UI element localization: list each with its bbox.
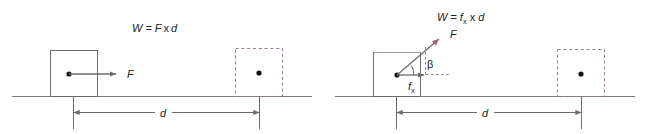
formula-force: F <box>155 22 163 34</box>
formula-times-right: x <box>470 11 476 23</box>
formula-equals-right: = <box>450 11 456 23</box>
diagram-canvas: W=Fxd F d W=fxxd <box>0 0 647 134</box>
panel-right-formula: W=fxxd <box>437 11 485 26</box>
formula-force-subscript-right: x <box>463 17 467 26</box>
force-arrow-label-left: F <box>127 68 135 80</box>
angle-arc-right <box>412 66 415 75</box>
formula-equals: = <box>145 22 151 34</box>
dimension-label-right: d <box>482 107 489 119</box>
component-label-subscript: x <box>411 86 415 95</box>
dashed-box-center-dot-left <box>256 70 261 75</box>
formula-work-right: W <box>437 11 449 23</box>
dashed-box-center-dot-right <box>578 71 583 76</box>
panel-left: W=Fxd F d <box>12 22 312 129</box>
formula-distance-right: d <box>478 11 485 23</box>
panel-left-formula: W=Fxd <box>132 22 178 34</box>
dimension-label-left: d <box>160 107 167 119</box>
panel-right: W=fxxd F fx β <box>335 11 635 129</box>
force-arrow-label-right: F <box>450 28 458 40</box>
formula-times: x <box>164 22 170 34</box>
component-arrow-label-right: fx <box>408 80 415 95</box>
formula-work: W <box>132 22 144 34</box>
physics-work-diagram: W=Fxd F d W=fxxd <box>0 0 647 134</box>
formula-distance: d <box>171 22 178 34</box>
angle-label-right: β <box>427 58 433 70</box>
